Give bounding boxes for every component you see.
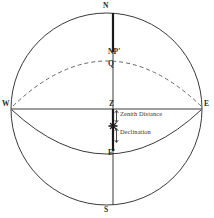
label-north: N xyxy=(103,2,109,10)
lower-arc xyxy=(12,110,201,154)
zenith-distance-indicator xyxy=(115,110,119,122)
label-zenith: Z xyxy=(109,100,114,108)
annotation-zenith-distance: Zenith Distance xyxy=(120,111,162,117)
label-equator-point: Q xyxy=(108,60,114,68)
label-east: E xyxy=(204,100,209,108)
celestial-sphere-diagram: N NP' Q W E Z E' S Zenith Distance Decli… xyxy=(0,0,214,218)
annotation-declination: Declination xyxy=(120,129,151,135)
declination-indicator xyxy=(115,128,119,142)
label-west: W xyxy=(2,100,10,108)
celestial-equator-arc xyxy=(13,61,201,106)
label-equator-prime: E' xyxy=(108,149,115,157)
label-south: S xyxy=(104,206,108,214)
label-north-pole: NP' xyxy=(108,48,120,56)
diagram-canvas xyxy=(0,0,214,218)
